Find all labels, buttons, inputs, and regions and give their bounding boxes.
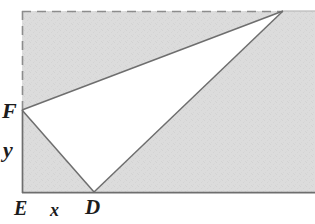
segment-label-x: x (50, 201, 59, 219)
figure-canvas (0, 0, 315, 224)
shaded-region (22, 11, 315, 193)
vertex-label-D: D (85, 197, 100, 218)
geometry-figure: F y E x D (0, 0, 315, 224)
shaded-region-group (22, 11, 315, 193)
vertex-label-F: F (2, 100, 17, 122)
vertex-label-E: E (14, 198, 27, 218)
segment-label-y: y (3, 139, 13, 161)
